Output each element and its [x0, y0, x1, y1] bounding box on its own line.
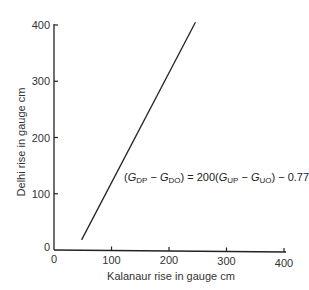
data-line: [82, 22, 196, 240]
x-axis: [54, 250, 286, 252]
chart: 0100200300400 0100200300400 Delhi rise i…: [0, 0, 309, 290]
y-tick-label: 0: [44, 241, 50, 253]
x-axis-label: Kalanaur rise in gauge cm: [107, 270, 235, 282]
y-axis-label: Delhi rise in gauge cm: [15, 88, 27, 197]
x-tick-label: 0: [51, 253, 57, 265]
y-tick-label: 200: [32, 132, 50, 144]
y-tick-label: 300: [32, 75, 50, 87]
regression-equation: (GDP − GDO) = 200(GUP − GUO) − 0.77: [124, 171, 309, 185]
x-tick-label: 200: [160, 254, 178, 266]
y-tick-label: 400: [32, 19, 50, 31]
y-tick-label: 100: [32, 188, 50, 200]
x-tick-label: 100: [102, 254, 120, 266]
x-tick-label: 300: [217, 255, 235, 267]
x-tick-label: 400: [275, 257, 293, 269]
